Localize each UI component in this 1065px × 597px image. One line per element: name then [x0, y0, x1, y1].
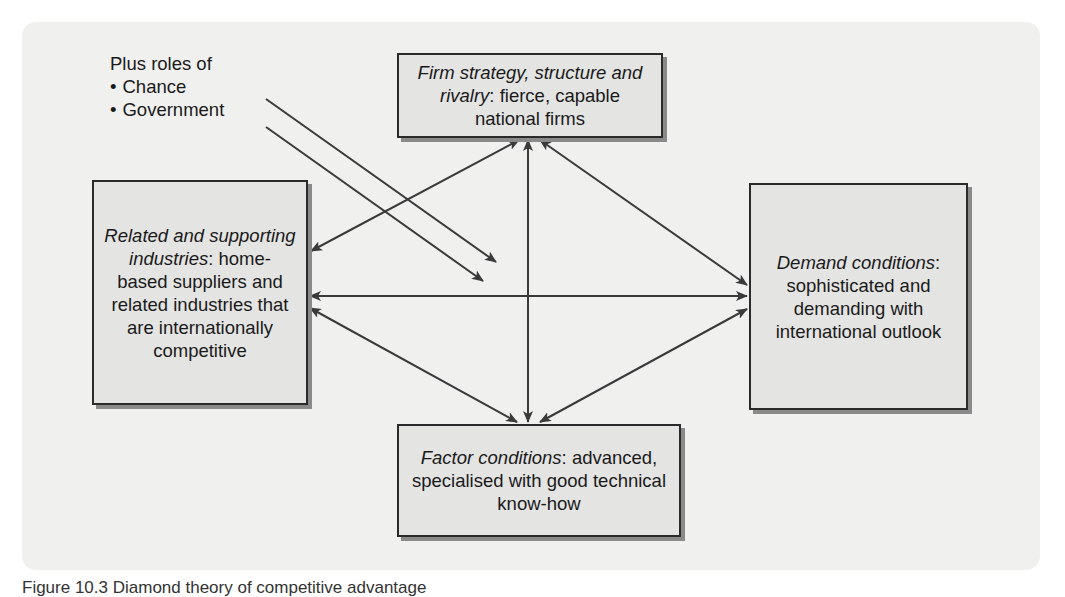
firm-strategy-box: Firm strategy, structure and rivalry: fi… — [397, 53, 663, 138]
firm-strategy-text: : fierce, capable national firms — [475, 85, 620, 129]
figure-caption: Figure 10.3 Diamond theory of competitiv… — [22, 578, 426, 597]
roles-heading: Plus roles of — [110, 52, 224, 75]
firm-related-arrow — [311, 140, 519, 251]
factor-conditions-box: Factor conditions: advanced, specialised… — [397, 424, 681, 537]
role-government: Government — [110, 98, 224, 121]
roles-note: Plus roles of Chance Government — [110, 52, 224, 121]
factor-conditions-title: Factor conditions — [421, 447, 562, 468]
firm-demand-arrow — [540, 140, 747, 285]
related-industries-box: Related and supporting industries: home-… — [92, 180, 308, 405]
related-factor-arrow — [310, 308, 517, 422]
roles-list: Chance Government — [110, 75, 224, 121]
demand-conditions-title: Demand conditions — [777, 252, 935, 273]
demand-factor-arrow — [540, 309, 747, 422]
role-chance: Chance — [110, 75, 224, 98]
demand-conditions-box: Demand conditions: sophisticated and dem… — [749, 183, 968, 410]
